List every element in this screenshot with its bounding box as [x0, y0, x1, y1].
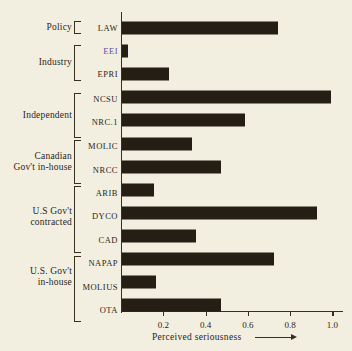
- bar-chart: Policy Industry Independent Canadian Gov…: [0, 0, 352, 351]
- x-axis-title-text: Perceived seriousness: [152, 332, 241, 342]
- item-label-cad: CAD: [74, 236, 118, 245]
- bar-epri: [122, 68, 169, 81]
- x-tick-0.4: [206, 311, 207, 316]
- x-axis-title: Perceived seriousness: [152, 332, 297, 342]
- x-tick-label-0.2: 0.2: [158, 320, 169, 330]
- item-label-nrcc: NRCC: [74, 166, 118, 175]
- item-label-column: LAW EEI EPRI NCSU NRC.1 MOLIC NRCC ARIB …: [74, 0, 118, 351]
- bar-ota: [122, 299, 221, 312]
- group-label-us-govt-contracted: U.S Gov't contracted: [30, 206, 72, 227]
- group-label-column: Policy Industry Independent Canadian Gov…: [0, 0, 72, 351]
- bar-napap: [122, 253, 274, 266]
- bar-nrc-1: [122, 114, 245, 127]
- right-arrow-icon: [255, 334, 297, 341]
- item-label-molic: MOLIC: [74, 142, 118, 151]
- x-tick-label-0.8: 0.8: [285, 320, 296, 330]
- bar-ncsu: [122, 91, 331, 104]
- x-tick-label-1.0: 1.0: [327, 320, 338, 330]
- item-label-ota: OTA: [74, 306, 118, 315]
- x-tick-0.8: [290, 311, 291, 316]
- x-tick-0.2: [163, 311, 164, 316]
- plot-area: 0.20.40.60.81.0: [121, 12, 352, 312]
- item-label-nrc1: NRC.1: [74, 118, 118, 127]
- bar-molic: [122, 137, 192, 150]
- group-label-independent: Independent: [23, 110, 72, 121]
- bar-dyco: [122, 206, 317, 219]
- item-label-law: LAW: [74, 24, 118, 33]
- bar-molius: [122, 276, 156, 289]
- x-tick-label-0.6: 0.6: [242, 320, 253, 330]
- group-label-us-govt-in-house: U.S. Gov't in-house: [30, 266, 72, 287]
- bar-arib: [122, 183, 154, 196]
- item-label-eei: EEI: [74, 47, 118, 56]
- bar-eei: [122, 45, 128, 58]
- x-tick-0.6: [248, 311, 249, 316]
- bar-cad: [122, 229, 196, 242]
- item-label-napap: NAPAP: [74, 259, 118, 268]
- item-label-dyco: DYCO: [74, 212, 118, 221]
- x-tick-label-0.4: 0.4: [200, 320, 211, 330]
- bar-nrcc: [122, 160, 221, 173]
- group-label-policy: Policy: [47, 22, 72, 33]
- group-label-canadian-govt-in-house: Canadian Gov't in-house: [13, 151, 72, 172]
- bar-law: [122, 22, 278, 35]
- item-label-arib: ARIB: [74, 189, 118, 198]
- item-label-epri: EPRI: [74, 70, 118, 79]
- item-label-molius: MOLIUS: [74, 283, 118, 292]
- group-label-industry: Industry: [39, 57, 72, 68]
- x-tick-1.0: [332, 311, 333, 316]
- item-label-ncsu: NCSU: [74, 95, 118, 104]
